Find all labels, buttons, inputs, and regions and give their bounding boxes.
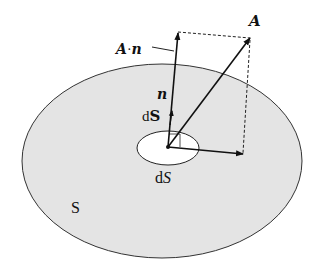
dashed-top-line xyxy=(178,32,250,38)
origin-point xyxy=(166,145,170,149)
label-surface-s: S xyxy=(71,200,80,216)
projection-leader-line xyxy=(152,47,174,51)
label-projection-n: n xyxy=(132,41,142,57)
label-vector-a: A xyxy=(249,14,261,29)
label-normal-n: n xyxy=(157,87,167,101)
diagram-svg xyxy=(0,0,321,274)
flux-diagram: A A·n n dS dS S xyxy=(0,0,321,274)
label-projection: A·n xyxy=(116,42,142,57)
label-area-element-d: d xyxy=(155,169,163,186)
label-area-vector-d: d xyxy=(142,108,150,124)
label-area-element-s: S xyxy=(163,169,171,186)
label-projection-a: A xyxy=(116,41,127,57)
label-area-vector-s: S xyxy=(150,107,161,125)
label-area-element-ds: dS xyxy=(155,170,171,186)
label-area-vector-ds: dS xyxy=(142,109,160,124)
